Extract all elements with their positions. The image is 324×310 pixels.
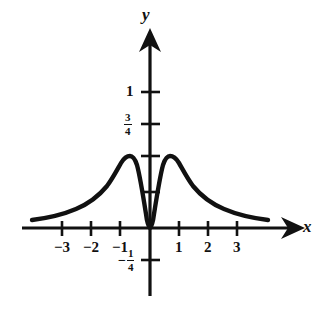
fraction-numerator: 1 [127, 248, 135, 261]
x-tick-label-2: 2 [204, 240, 212, 255]
graph-figure: y x −3 −2 −1 1 2 3 1 3 4 − 1 4 [0, 0, 324, 310]
x-tick-label-3: 3 [233, 240, 241, 255]
coordinate-plane-svg [0, 0, 324, 310]
fraction-one-quarter: 1 4 [127, 248, 135, 273]
fraction-denominator: 4 [127, 261, 135, 273]
fraction-three-quarters: 3 4 [124, 112, 132, 137]
x-tick-label--3: −3 [54, 240, 70, 255]
y-tick-label-three-quarters: 3 4 [124, 112, 132, 137]
y-axis-label: y [142, 6, 150, 23]
negative-fraction-one-quarter: − 1 4 [118, 248, 134, 273]
minus-sign: − [118, 254, 126, 268]
x-tick-label-1: 1 [175, 240, 183, 255]
fraction-denominator: 4 [124, 125, 132, 137]
x-tick-label--2: −2 [83, 240, 99, 255]
y-tick-label-1: 1 [126, 84, 134, 99]
fraction-numerator: 3 [124, 112, 132, 125]
y-tick-label-neg-quarter: − 1 4 [118, 248, 134, 273]
x-axis-label: x [303, 218, 312, 235]
